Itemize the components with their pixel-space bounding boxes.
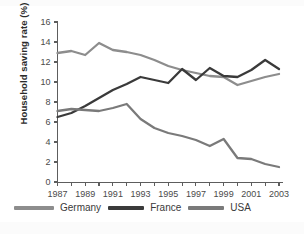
legend-swatch-usa-icon	[188, 206, 224, 210]
chart-legend: Germany France USA	[14, 202, 292, 213]
data-series-group	[58, 43, 280, 167]
chart-screenshot: Household saving rate (%) 0246810121416 …	[0, 0, 304, 234]
legend-label-usa: USA	[230, 202, 251, 213]
legend-item-france[interactable]: France	[108, 202, 181, 213]
y-tick-label: 4	[45, 137, 50, 147]
x-tick-label: 1991	[103, 189, 123, 199]
x-tick-label: 1987	[47, 189, 67, 199]
legend-label-france: France	[150, 202, 181, 213]
y-axis: 0246810121416	[40, 17, 57, 187]
y-tick-label: 16	[40, 17, 50, 27]
legend-swatch-germany-icon	[14, 206, 54, 210]
line-chart-figure: Household saving rate (%) 0246810121416 …	[0, 0, 304, 234]
y-tick-label: 0	[45, 177, 50, 187]
x-axis: 198719891991199319951997199920012003	[47, 182, 289, 199]
y-tick-label: 6	[45, 117, 50, 127]
x-tick-label: 1995	[158, 189, 178, 199]
x-tick-label: 2003	[269, 189, 289, 199]
y-tick-label: 8	[45, 97, 50, 107]
chart-plot-area: 0246810121416 19871989199119931995199719…	[0, 0, 304, 234]
y-tick-label: 12	[40, 57, 50, 67]
x-tick-label: 1993	[131, 189, 151, 199]
x-tick-label: 1999	[214, 189, 234, 199]
x-tick-label: 1997	[186, 189, 206, 199]
y-tick-label: 10	[40, 77, 50, 87]
legend-swatch-france-icon	[108, 206, 144, 210]
y-tick-label: 14	[40, 37, 50, 47]
series-line-usa	[58, 104, 280, 167]
legend-item-germany[interactable]: Germany	[14, 202, 101, 213]
legend-item-usa[interactable]: USA	[188, 202, 251, 213]
x-tick-label: 1989	[75, 189, 95, 199]
legend-label-germany: Germany	[60, 202, 101, 213]
series-line-germany	[58, 43, 280, 85]
y-tick-label: 2	[45, 157, 50, 167]
series-line-france	[58, 60, 280, 117]
x-tick-label: 2001	[241, 189, 261, 199]
